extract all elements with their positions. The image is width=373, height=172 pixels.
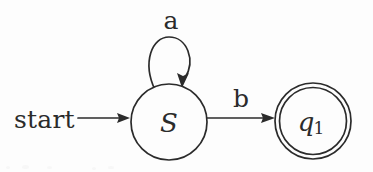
start-arrow xyxy=(78,113,130,123)
scan-artifact xyxy=(6,166,10,169)
transition-arrowhead-b-icon xyxy=(261,113,275,123)
scan-artifact xyxy=(108,166,114,169)
start-label: start xyxy=(14,105,75,134)
state-q1-label: q xyxy=(298,107,315,137)
automaton-diagram: q1 ===== --> S q 1 start a b xyxy=(0,0,373,172)
state-S[interactable]: S xyxy=(131,84,207,160)
transition-label-a: a xyxy=(164,6,179,35)
scan-artifact xyxy=(92,167,96,170)
scan-artifact xyxy=(47,166,52,169)
state-S-label: S xyxy=(160,108,178,138)
transition-S-to-q1[interactable] xyxy=(207,113,275,123)
self-loop-S[interactable] xyxy=(149,37,190,90)
transition-label-b: b xyxy=(233,84,249,113)
automaton-canvas: q1 ===== --> S q 1 start a b xyxy=(0,0,373,172)
state-q1[interactable]: q 1 xyxy=(275,83,351,159)
scan-artifact xyxy=(22,165,29,169)
state-q1-label-subscript: 1 xyxy=(314,118,325,138)
